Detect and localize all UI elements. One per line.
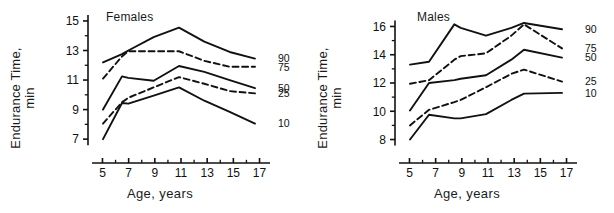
- x-tick-label: 17: [253, 166, 267, 180]
- series-line-p10: [410, 93, 562, 140]
- series-line-p90: [103, 28, 255, 63]
- x-tick-label: 15: [534, 166, 548, 180]
- y-tick-label: 7: [72, 132, 79, 146]
- y-tick-label: 11: [67, 73, 80, 87]
- y-tick-label: 10: [373, 105, 387, 119]
- plot-area-females: 79111315579111315179075502510: [0, 0, 307, 213]
- x-tick-label: 5: [406, 166, 413, 180]
- series-label-p75: 75: [278, 61, 290, 73]
- y-tick-label: 9: [72, 103, 79, 117]
- series-line-p75: [103, 51, 255, 78]
- x-tick-label: 9: [458, 166, 465, 180]
- x-tick-label: 17: [560, 166, 574, 180]
- series-label-p25: 25: [278, 87, 290, 99]
- x-tick-label: 5: [99, 166, 106, 180]
- series-label-p25: 25: [585, 75, 597, 87]
- y-tick-label: 16: [373, 20, 387, 34]
- series-line-p90: [410, 23, 562, 65]
- y-tick-label: 14: [373, 48, 387, 62]
- y-tick-label: 13: [66, 44, 80, 58]
- x-tick-label: 7: [125, 166, 132, 180]
- series-line-p50: [410, 50, 562, 111]
- plot-svg-males: 810121416579111315179075502510: [307, 0, 614, 213]
- y-tick-label: 12: [373, 76, 387, 90]
- chart-panel-males: Endurance Time, min Males Age, years 810…: [307, 0, 614, 213]
- x-tick-label: 13: [200, 166, 214, 180]
- x-tick-label: 11: [175, 166, 188, 180]
- series-label-p10: 10: [585, 87, 597, 99]
- x-tick-label: 15: [227, 166, 241, 180]
- y-tick-label: 15: [66, 14, 80, 28]
- series-line-p10: [103, 87, 255, 139]
- endurance-time-figure: Endurance Time, min Females Age, years 7…: [0, 0, 614, 213]
- y-tick-label: 8: [379, 133, 386, 147]
- x-tick-label: 9: [151, 166, 158, 180]
- series-line-p25: [103, 77, 255, 124]
- series-label-p90: 90: [585, 23, 597, 35]
- plot-area-males: 810121416579111315179075502510: [307, 0, 614, 213]
- series-label-p50: 50: [585, 51, 597, 63]
- chart-panel-females: Endurance Time, min Females Age, years 7…: [0, 0, 307, 213]
- series-label-p10: 10: [278, 117, 290, 129]
- x-tick-label: 11: [482, 166, 495, 180]
- x-tick-label: 13: [507, 166, 521, 180]
- plot-svg-females: 79111315579111315179075502510: [0, 0, 307, 213]
- x-tick-label: 7: [432, 166, 439, 180]
